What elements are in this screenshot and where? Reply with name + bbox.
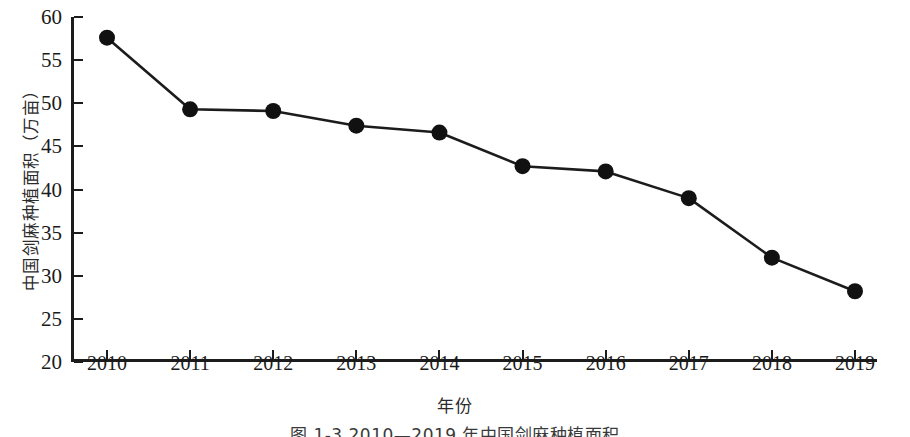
x-tick-label: 2019 (835, 352, 875, 375)
x-tick-label: 2018 (752, 352, 792, 375)
y-axis-title: 中国剑麻种植面积（万亩） (18, 6, 42, 366)
x-tick-label: 2013 (336, 352, 376, 375)
y-tick-label: 40 (41, 177, 62, 202)
series-markers (99, 30, 863, 300)
x-tick-label: 2010 (87, 352, 127, 375)
data-point (99, 30, 115, 46)
data-point (847, 283, 863, 299)
data-point (681, 190, 697, 206)
data-point (764, 250, 780, 266)
data-point (265, 103, 281, 119)
x-tick-label: 2014 (419, 352, 459, 375)
data-point (348, 118, 364, 134)
x-tick-label: 2017 (669, 352, 709, 375)
figure-container: 中国剑麻种植面积（万亩） 202530354045505560 20102011… (0, 0, 910, 437)
y-tick-label: 35 (41, 220, 62, 245)
data-series-layer (71, 17, 877, 362)
data-point (431, 125, 447, 141)
series-line-sisal-area (107, 38, 855, 292)
y-tick-label: 45 (41, 134, 62, 159)
data-point (515, 158, 531, 174)
x-tick-label: 2011 (170, 352, 209, 375)
y-tick-label: 60 (41, 5, 62, 30)
y-tick-label: 20 (41, 350, 62, 375)
y-tick-label: 30 (41, 263, 62, 288)
y-tick-label: 50 (41, 91, 62, 116)
data-point (598, 163, 614, 179)
plot-area: 202530354045505560 (71, 17, 877, 362)
x-tick-label: 2015 (503, 352, 543, 375)
x-tick-label: 2016 (586, 352, 626, 375)
data-point (182, 101, 198, 117)
x-tick-label: 2012 (253, 352, 293, 375)
figure-caption: 图 1-3 2010—2019 年中国剑麻种植面积 (0, 421, 910, 437)
y-tick-label: 25 (41, 306, 62, 331)
y-tick-label: 55 (41, 48, 62, 73)
x-axis-title: 年份 (0, 392, 910, 417)
